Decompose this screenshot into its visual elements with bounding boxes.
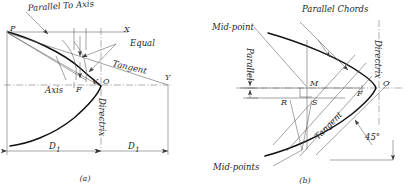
label-point-s: S (312, 98, 318, 107)
chord-arrow-1 (318, 40, 330, 57)
label-parallel-chords: Parallel Chords (301, 4, 369, 14)
construction-arc-2 (74, 42, 87, 82)
dimension-label-left-sub: 1 (56, 145, 61, 154)
label-point-r: R (280, 98, 287, 107)
label-parallel: Parallel (245, 47, 255, 81)
figure-canvas: Parallel To Axis P X Equal Tangent Y Axi… (0, 0, 410, 193)
label-mid-points: Mid-points (212, 162, 260, 172)
chord-arrow-3 (300, 22, 318, 40)
equal-leader-1 (82, 44, 116, 57)
construction-line-p-1 (8, 33, 86, 80)
mid-points-leader-2 (290, 100, 302, 150)
dimension-label-left: D (48, 141, 56, 151)
label-point-x: X (123, 25, 130, 34)
label-tangent-b: Tangent (312, 109, 344, 141)
label-directrix-a: Directrix (97, 97, 107, 137)
dimension-label-right-sub: 1 (135, 145, 140, 154)
parabola-figure-svg: Parallel To Axis P X Equal Tangent Y Axi… (0, 0, 410, 193)
label-angle-45: 45° (364, 132, 380, 142)
caption-a: (a) (79, 174, 90, 183)
label-equal: Equal (129, 38, 155, 48)
label-point-o-a: O (103, 77, 110, 86)
parallel-to-axis-leader (26, 12, 48, 34)
label-tangent-a: Tangent (112, 58, 149, 76)
chord-arrow-2 (318, 40, 348, 70)
caption-b: (b) (299, 176, 310, 185)
label-point-f-a: F (75, 85, 82, 94)
label-directrix-b: Directrix (373, 39, 383, 79)
panel-b: Parallel Chords Mid-point Parallel Direc… (211, 4, 404, 185)
panel-a: Parallel To Axis P X Equal Tangent Y Axi… (4, 0, 172, 183)
label-point-o-b: O (383, 79, 390, 88)
label-point-f-b: F (356, 89, 363, 98)
right-angle-marker (300, 88, 312, 97)
label-axis: Axis (44, 85, 64, 95)
label-mid-point: Mid-point (211, 22, 254, 32)
label-point-m: M (309, 79, 319, 88)
label-parallel-to-axis: Parallel To Axis (26, 0, 94, 13)
label-point-y: Y (165, 73, 171, 82)
dimension-label-right: D (127, 141, 135, 151)
axis-leader (56, 56, 66, 80)
label-point-p: P (9, 24, 16, 33)
